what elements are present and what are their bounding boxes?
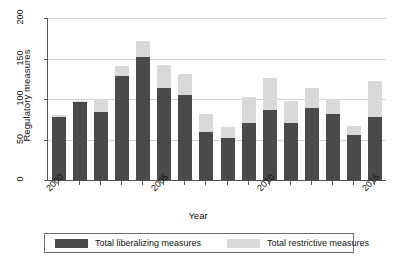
- bar-group: [242, 18, 256, 180]
- chart-figure: Regulatory measures 050100150200 2000200…: [0, 0, 396, 263]
- bar-group: [178, 18, 192, 180]
- bar-segment-restrictive: [242, 97, 256, 122]
- bar-segment-restrictive: [326, 99, 340, 114]
- legend-item-liberalizing: Total liberalizing measures: [55, 234, 201, 252]
- bar-segment-liberalizing: [73, 102, 87, 180]
- y-axis-tick-label: 150: [15, 41, 25, 75]
- y-axis-tick-mark: [44, 59, 48, 60]
- bar-segment-restrictive: [199, 114, 213, 133]
- x-axis-tick-mark: [332, 181, 333, 185]
- y-axis-tick-label: 50: [15, 122, 25, 156]
- legend-item-restrictive: Total restrictive measures: [227, 234, 369, 252]
- plot-area: [47, 18, 386, 180]
- bar-segment-restrictive: [305, 88, 319, 107]
- x-axis-line: [47, 180, 386, 181]
- bar-group: [52, 18, 66, 180]
- bar-group: [368, 18, 382, 180]
- bar-segment-liberalizing: [136, 57, 150, 180]
- x-axis-tick-mark: [311, 181, 312, 185]
- bar-segment-liberalizing: [368, 117, 382, 180]
- bar-group: [284, 18, 298, 180]
- y-axis-tick-label: 0: [15, 162, 25, 196]
- bar-segment-liberalizing: [305, 108, 319, 180]
- x-axis-tick-mark: [205, 181, 206, 185]
- bar-segment-restrictive: [73, 101, 87, 102]
- x-axis-tick-mark: [227, 181, 228, 185]
- bar-segment-liberalizing: [347, 135, 361, 180]
- y-axis-tick-mark: [44, 18, 48, 19]
- bar-segment-liberalizing: [284, 123, 298, 181]
- bar-group: [347, 18, 361, 180]
- x-axis-tick-mark: [58, 181, 59, 185]
- bar-segment-restrictive: [221, 127, 235, 138]
- bar-group: [263, 18, 277, 180]
- y-axis-tick-label: 100: [15, 81, 25, 115]
- x-axis-tick-mark: [79, 181, 80, 185]
- chart-legend: Total liberalizing measures Total restri…: [44, 233, 354, 253]
- bar-group: [221, 18, 235, 180]
- x-axis-tick-mark: [163, 181, 164, 185]
- bar-segment-liberalizing: [178, 95, 192, 180]
- x-axis-tick-mark: [374, 181, 375, 185]
- bar-group: [136, 18, 150, 180]
- bar-segment-liberalizing: [221, 138, 235, 180]
- bar-group: [73, 18, 87, 180]
- bar-segment-restrictive: [284, 101, 298, 122]
- bar-group: [157, 18, 171, 180]
- bar-segment-restrictive: [115, 66, 129, 76]
- y-axis-tick-mark: [44, 140, 48, 141]
- legend-label-liberalizing: Total liberalizing measures: [95, 238, 201, 248]
- bar-segment-liberalizing: [115, 76, 129, 180]
- bar-segment-liberalizing: [157, 88, 171, 180]
- bar-segment-restrictive: [157, 65, 171, 88]
- x-axis-tick-mark: [184, 181, 185, 185]
- x-axis-tick-mark: [353, 181, 354, 185]
- bar-segment-restrictive: [347, 126, 361, 136]
- y-axis-tick-label: 200: [15, 0, 25, 34]
- bar-segment-liberalizing: [199, 132, 213, 180]
- x-axis-title: Year: [0, 210, 396, 221]
- legend-swatch-liberalizing: [55, 239, 88, 248]
- bar-segment-liberalizing: [242, 123, 256, 181]
- bar-segment-restrictive: [368, 81, 382, 117]
- legend-label-restrictive: Total restrictive measures: [267, 238, 369, 248]
- bar-group: [305, 18, 319, 180]
- bar-segment-restrictive: [94, 99, 108, 112]
- bar-segment-liberalizing: [94, 112, 108, 180]
- bar-segment-restrictive: [52, 115, 66, 117]
- bar-segment-liberalizing: [263, 110, 277, 180]
- y-axis-tick-mark: [44, 99, 48, 100]
- x-axis-tick-mark: [269, 181, 270, 185]
- legend-swatch-restrictive: [227, 239, 260, 248]
- bar-segment-restrictive: [263, 78, 277, 110]
- bar-group: [326, 18, 340, 180]
- x-axis-tick-mark: [100, 181, 101, 185]
- bar-segment-liberalizing: [326, 114, 340, 180]
- bar-segment-restrictive: [178, 74, 192, 95]
- bar-group: [115, 18, 129, 180]
- bar-segment-restrictive: [136, 41, 150, 57]
- bar-group: [94, 18, 108, 180]
- bar-segment-liberalizing: [52, 117, 66, 180]
- x-axis-tick-mark: [121, 181, 122, 185]
- x-axis-tick-mark: [142, 181, 143, 185]
- bar-group: [199, 18, 213, 180]
- x-axis-tick-mark: [290, 181, 291, 185]
- x-axis-tick-mark: [248, 181, 249, 185]
